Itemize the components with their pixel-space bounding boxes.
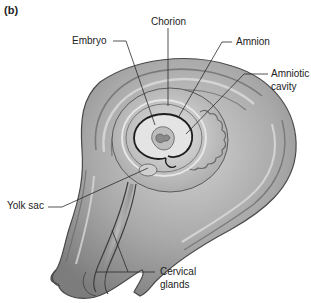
panel-label: (b) (4, 4, 18, 16)
label-amniotic-cavity-line1: Amniotic (271, 68, 309, 80)
label-amniotic-cavity-line2: cavity (271, 81, 297, 93)
uterus-diagram-figure: (b) Chorion Embryo Amnion Amniotic cavit… (0, 0, 311, 303)
label-cervical-glands-line1: Cervical (160, 266, 196, 278)
label-embryo: Embryo (72, 35, 106, 47)
label-amnion: Amnion (236, 36, 270, 48)
label-yolk-sac: Yolk sac (7, 200, 44, 212)
label-chorion: Chorion (151, 16, 186, 28)
label-cervical-glands-line2: glands (160, 279, 189, 291)
